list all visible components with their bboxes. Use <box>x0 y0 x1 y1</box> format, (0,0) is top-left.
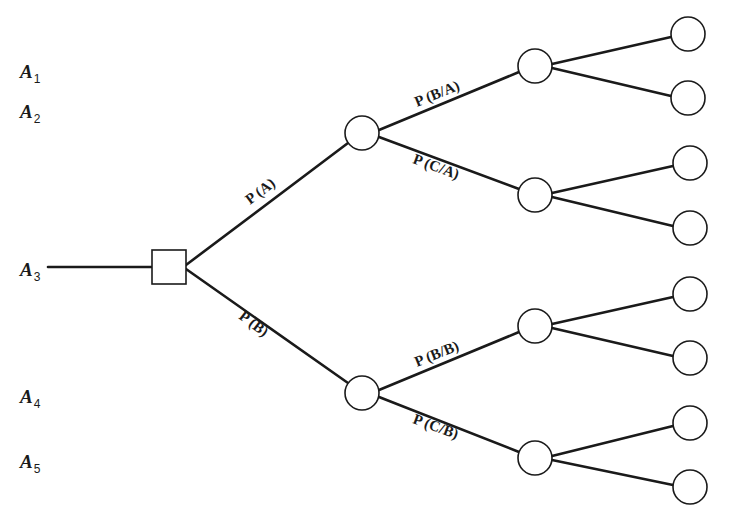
branch-terminal-7 <box>552 426 673 456</box>
branch-terminal-6 <box>552 328 673 356</box>
chance-node-b-given-b <box>518 309 552 343</box>
decision-tree-diagram: P (A) P (B) P (B/A) P (C/A) P (B/B) P (C… <box>0 0 730 531</box>
branch-terminal-8 <box>552 460 673 485</box>
alternative-letter: A <box>20 386 33 407</box>
alternative-subscript: 5 <box>34 462 41 476</box>
alternative-subscript: 3 <box>34 270 41 284</box>
alternative-label-a3: A3 <box>20 260 40 279</box>
terminal-node-6 <box>673 341 707 375</box>
chance-node-b-given-a <box>518 49 552 83</box>
chance-node-c-given-a <box>518 178 552 212</box>
terminal-node-3 <box>673 146 707 180</box>
terminal-node-2 <box>671 81 705 115</box>
branch-terminal-3 <box>552 166 673 193</box>
branch-terminal-5 <box>552 297 673 324</box>
label-p-c-given-b: P (C/B) <box>411 411 461 443</box>
label-p-b: P (B) <box>236 308 272 341</box>
alternative-letter: A <box>20 101 33 122</box>
label-p-a: P (A) <box>242 175 279 208</box>
alternative-letter: A <box>20 259 33 280</box>
branch-p-a <box>186 143 348 265</box>
alternative-letter: A <box>20 451 33 472</box>
branch-terminal-2 <box>552 68 671 96</box>
chance-node-a <box>345 116 379 150</box>
terminal-node-4 <box>673 211 707 245</box>
label-p-c-given-a: P (C/A) <box>411 151 462 183</box>
alternative-subscript: 4 <box>34 397 41 411</box>
decision-node-square <box>152 250 186 284</box>
alternative-label-a1: A1 <box>20 62 40 81</box>
alternative-subscript: 1 <box>34 72 41 86</box>
terminal-node-8 <box>673 470 707 504</box>
terminal-node-5 <box>673 277 707 311</box>
terminal-node-1 <box>671 17 705 51</box>
alternative-label-a2: A2 <box>20 102 40 121</box>
terminal-node-7 <box>673 406 707 440</box>
chance-node-c-given-b <box>518 441 552 475</box>
alternative-letter: A <box>20 61 33 82</box>
alternative-label-a4: A4 <box>20 387 40 406</box>
alternative-label-a5: A5 <box>20 452 40 471</box>
alternative-subscript: 2 <box>34 112 41 126</box>
branch-terminal-1 <box>552 37 671 64</box>
branch-terminal-4 <box>552 197 673 226</box>
chance-node-b <box>345 376 379 410</box>
